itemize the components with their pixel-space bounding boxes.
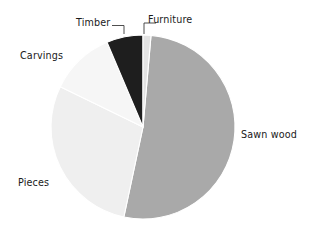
timber-leader-line bbox=[112, 26, 124, 35]
pie-label-furniture: Furniture bbox=[148, 15, 192, 25]
pie-label-timber: Timber bbox=[76, 18, 110, 28]
pie-chart: Sawn wood Pieces Carvings Timber Furnitu… bbox=[0, 0, 324, 246]
pie-label-carvings: Carvings bbox=[20, 51, 63, 61]
pie-label-pieces: Pieces bbox=[18, 178, 49, 188]
pie-chart-canvas bbox=[0, 0, 324, 246]
pie-label-sawn-wood: Sawn wood bbox=[241, 130, 297, 140]
